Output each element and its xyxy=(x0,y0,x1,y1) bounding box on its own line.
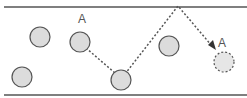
particle-circle xyxy=(159,36,179,56)
label-a-start: A xyxy=(78,13,86,25)
particle-a-start xyxy=(70,32,90,52)
label-a-end: A xyxy=(218,37,226,49)
dotted-path xyxy=(86,6,212,74)
particle-circle xyxy=(12,67,32,87)
arrowhead-icon xyxy=(208,40,216,50)
particle-circle xyxy=(30,27,50,47)
particle-a-end xyxy=(214,52,234,72)
diagram-canvas xyxy=(0,0,247,98)
particle-circle xyxy=(111,70,131,90)
